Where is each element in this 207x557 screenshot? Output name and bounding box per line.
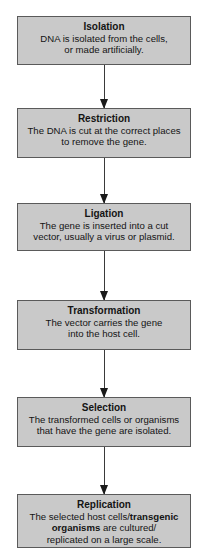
step-desc-line: to remove the gene. xyxy=(18,136,190,148)
step-desc-line: or made artificially. xyxy=(18,44,190,56)
step-desc-line: that have the gene are isolated. xyxy=(18,425,190,437)
arrow-down-icon xyxy=(104,158,105,203)
step-desc-line: vector, usually a virus or plasmid. xyxy=(18,231,190,243)
step-restriction: Restriction The DNA is cut at the correc… xyxy=(17,108,191,158)
step-title: Transformation xyxy=(18,305,190,317)
step-title: Restriction xyxy=(18,113,190,125)
step-replication: Replication The selected host cells/tran… xyxy=(17,494,191,548)
step-title: Isolation xyxy=(18,21,190,33)
arrow-down-icon xyxy=(104,447,105,494)
bold-text-run: transgenic xyxy=(130,511,179,522)
arrow-down-icon xyxy=(104,65,105,108)
step-desc-line: DNA is isolated from the cells, xyxy=(18,33,190,45)
step-ligation: Ligation The gene is inserted into a cut… xyxy=(17,203,191,251)
step-title: Selection xyxy=(18,402,190,414)
step-desc-line: The vector carries the gene xyxy=(18,317,190,329)
step-transformation: Transformation The vector carries the ge… xyxy=(17,300,191,350)
step-isolation: Isolation DNA is isolated from the cells… xyxy=(17,16,191,65)
bold-text-run: organisms xyxy=(52,522,101,533)
step-desc-line: organisms are cultured/ xyxy=(18,522,190,534)
step-desc-line: replicated on a large scale. xyxy=(18,534,190,546)
text-run: are cultured/ xyxy=(100,522,156,533)
step-desc-line: The gene is inserted into a cut xyxy=(18,220,190,232)
step-desc-line: into the host cell. xyxy=(18,328,190,340)
step-selection: Selection The transformed cells or organ… xyxy=(17,397,191,447)
step-title: Ligation xyxy=(18,208,190,220)
arrow-down-icon xyxy=(104,251,105,300)
step-title: Replication xyxy=(18,499,190,511)
step-desc-line: The transformed cells or organisms xyxy=(18,414,190,426)
arrow-down-icon xyxy=(104,350,105,397)
step-desc-line: The DNA is cut at the correct places xyxy=(18,125,190,137)
step-desc-line: The selected host cells/transgenic xyxy=(18,511,190,523)
text-run: The selected host cells/ xyxy=(30,511,130,522)
